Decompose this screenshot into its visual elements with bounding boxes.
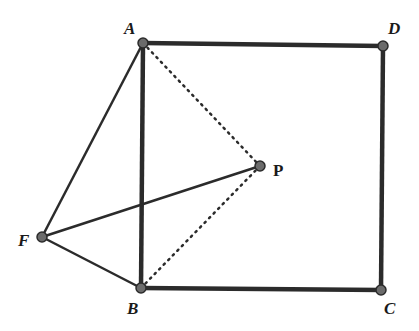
point-B	[136, 283, 146, 293]
segment-CB	[141, 288, 381, 290]
point-A	[138, 38, 148, 48]
segment-AD	[143, 43, 383, 46]
label-C: C	[384, 299, 396, 318]
segment-DC	[381, 46, 383, 290]
label-B: B	[126, 299, 138, 318]
segment-AP-dotted	[143, 43, 260, 166]
segment-FB	[42, 237, 141, 288]
point-P	[255, 161, 265, 171]
point-F	[37, 232, 47, 242]
point-C	[376, 285, 386, 295]
label-P: P	[273, 161, 283, 180]
segment-BA	[141, 43, 143, 288]
label-D: D	[387, 19, 400, 38]
point-D	[378, 41, 388, 51]
label-F: F	[17, 231, 30, 250]
geometry-diagram: A D C B P F	[0, 0, 419, 331]
label-A: A	[123, 19, 135, 38]
